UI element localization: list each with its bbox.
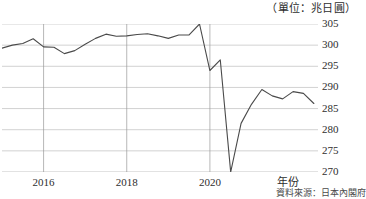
x-axis-title: 年份: [277, 176, 299, 188]
y-axis-tick-label: 300: [322, 39, 356, 50]
data-line-series-1: [2, 24, 314, 172]
unit-caption: （單位：兆日圓）: [266, 1, 356, 15]
source-note: 資料來源：日本內閣府: [276, 188, 366, 199]
y-axis-tick-label: 295: [322, 60, 356, 71]
y-axis-tick-label: 285: [322, 103, 356, 114]
y-axis-tick-label: 305: [322, 18, 356, 29]
x-axis-tick-label: 2018: [107, 176, 147, 188]
x-tick-marks: [44, 24, 210, 172]
gridlines: [2, 24, 318, 172]
x-axis-tick-label: 2016: [24, 176, 64, 188]
y-axis-tick-label: 280: [322, 124, 356, 135]
chart-canvas: [2, 24, 318, 172]
x-axis-tick-label: 2020: [190, 176, 230, 188]
plot-area: [2, 24, 318, 172]
y-axis-tick-label: 270: [322, 166, 356, 177]
y-axis-tick-label: 290: [322, 81, 356, 92]
y-axis-tick-label: 275: [322, 145, 356, 156]
